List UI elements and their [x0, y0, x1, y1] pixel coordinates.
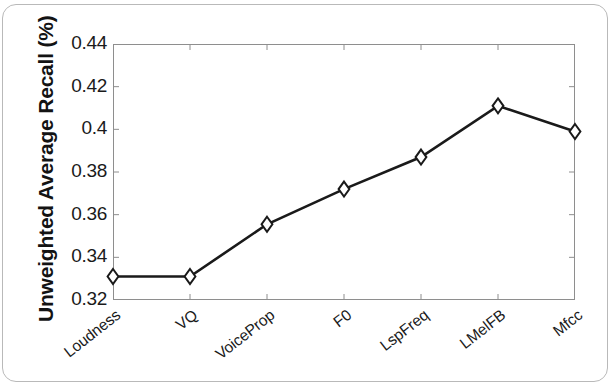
- chart-line-svg: [0, 0, 614, 392]
- axis-ticks: [113, 44, 575, 300]
- data-point-marker: [108, 269, 119, 284]
- data-point-marker: [416, 150, 427, 165]
- data-markers: [108, 98, 581, 284]
- data-point-marker: [262, 217, 273, 232]
- figure-container: Unweighted Average Recall (%) 0.320.340.…: [0, 0, 614, 392]
- data-point-marker: [339, 182, 350, 197]
- data-point-marker: [570, 124, 581, 139]
- data-point-marker: [493, 98, 504, 113]
- data-point-marker: [185, 269, 196, 284]
